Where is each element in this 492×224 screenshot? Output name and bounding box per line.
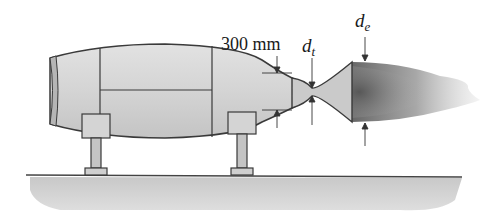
exhaust-plume [352,62,480,122]
throat-label: dt [302,35,316,59]
dimension-label: 300 mm [221,34,281,54]
support-rear [228,112,256,175]
nozzle [292,62,352,122]
exit-label: de [355,10,371,34]
support-front [82,114,110,175]
engine-diagram: 300 mm dt de [0,0,492,224]
ground [26,175,462,210]
